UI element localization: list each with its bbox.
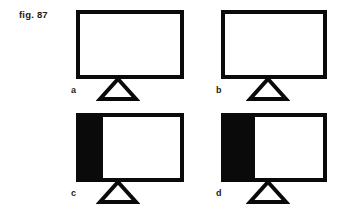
beam-d	[221, 113, 327, 182]
beam-a	[76, 10, 184, 79]
beam-c	[76, 113, 184, 182]
fulcrum-c	[96, 178, 140, 206]
fulcrum-b	[246, 75, 290, 103]
panel-label-c: c	[71, 188, 76, 198]
beam-fill-c	[76, 113, 103, 182]
fulcrum-d	[246, 178, 290, 206]
panel-label-d: d	[216, 188, 222, 198]
figure-caption: fig. 87	[19, 9, 48, 20]
beam-b	[221, 10, 327, 79]
panel-label-a: a	[71, 85, 76, 95]
figure-canvas: fig. 87 a b c d	[0, 0, 343, 217]
fulcrum-a	[96, 75, 140, 103]
panel-label-b: b	[216, 85, 222, 95]
beam-fill-d	[221, 113, 255, 182]
